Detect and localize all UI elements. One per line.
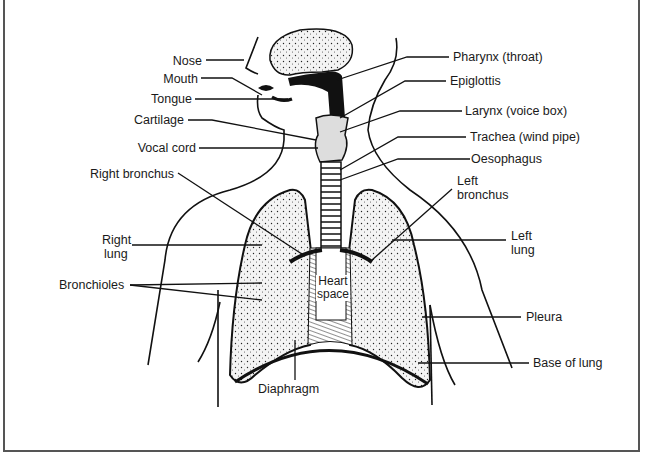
label-heart-line2: space (316, 288, 350, 301)
label-left-lung-line1: Left (511, 229, 532, 243)
label-right-lung-line2: lung (104, 247, 128, 261)
label-left-bronchus-line2: bronchus (457, 188, 508, 202)
label-oesophagus: Oesophagus (471, 152, 542, 166)
label-mouth: Mouth (150, 72, 198, 86)
label-trachea: Trachea (wind pipe) (470, 130, 580, 144)
label-diaphragm: Diaphragm (258, 382, 319, 396)
label-epiglottis: Epiglottis (450, 74, 501, 88)
label-left-lung-line2: lung (511, 243, 535, 257)
larynx (315, 115, 348, 162)
label-vocal-cord: Vocal cord (120, 141, 196, 155)
trachea-rings (321, 162, 341, 252)
label-nose: Nose (160, 54, 202, 68)
label-pleura: Pleura (526, 310, 562, 324)
label-heart-space: Heart space (316, 275, 350, 301)
mouth-lips (258, 85, 274, 91)
pharynx-tube (288, 72, 345, 119)
label-pharynx: Pharynx (throat) (453, 50, 543, 64)
label-base-of-lung: Base of lung (533, 356, 603, 370)
label-right-lung-line1: Right (102, 233, 131, 247)
respiratory-diagram (0, 0, 649, 463)
label-cartilage: Cartilage (120, 113, 184, 127)
label-tongue: Tongue (140, 92, 192, 106)
nasal-cavity (270, 29, 353, 75)
label-right-bronchus: Right bronchus (90, 167, 174, 181)
label-left-bronchus-line1: Left (457, 174, 478, 188)
label-bronchioles: Bronchioles (59, 278, 124, 292)
label-larynx: Larynx (voice box) (465, 104, 567, 118)
